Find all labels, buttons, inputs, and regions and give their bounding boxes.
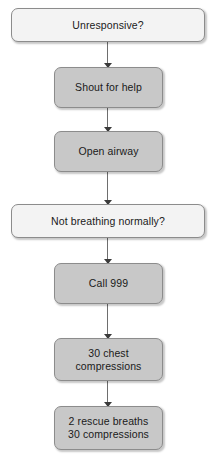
node-call-999: Call 999 xyxy=(54,263,163,304)
connector-shout-for-help-to-open-airway xyxy=(107,108,109,131)
node-label: Call 999 xyxy=(85,277,132,290)
node-unresponsive: Unresponsive? xyxy=(11,8,205,42)
node-shout-for-help: Shout for help xyxy=(54,67,163,108)
flowchart-diagram: Unresponsive? Shout for help Open airway… xyxy=(0,0,216,457)
connector-open-airway-to-not-breathing-normally xyxy=(107,172,109,204)
connector-chest-compressions-to-rescue-breaths xyxy=(107,381,109,406)
connector-not-breathing-normally-to-call-999 xyxy=(107,238,109,263)
node-label: 2 rescue breaths 30 compressions xyxy=(64,415,153,441)
node-label: Open airway xyxy=(74,145,142,158)
node-rescue-breaths-compressions: 2 rescue breaths 30 compressions xyxy=(54,406,163,450)
node-label: Shout for help xyxy=(71,81,146,94)
node-label: Unresponsive? xyxy=(68,19,147,32)
node-label: Not breathing normally? xyxy=(47,215,169,228)
node-chest-compressions: 30 chest compressions xyxy=(54,338,163,381)
connector-call-999-to-chest-compressions xyxy=(107,304,109,338)
node-label: 30 chest compressions xyxy=(72,347,146,373)
connector-line xyxy=(107,304,108,338)
node-not-breathing-normally: Not breathing normally? xyxy=(11,204,205,238)
node-open-airway: Open airway xyxy=(54,131,163,172)
connector-unresponsive-to-shout-for-help xyxy=(107,42,109,67)
